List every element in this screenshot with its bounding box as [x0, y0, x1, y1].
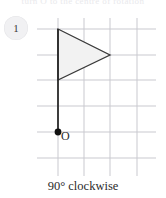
grid-lines — [37, 18, 156, 176]
rotation-caption: 90° clockwise — [0, 180, 166, 193]
point-o-label: O — [61, 130, 70, 142]
rotation-figure: turn O to the centre of rotation 1 O 90°… — [0, 0, 166, 198]
grid-and-shape-canvas — [0, 0, 166, 198]
